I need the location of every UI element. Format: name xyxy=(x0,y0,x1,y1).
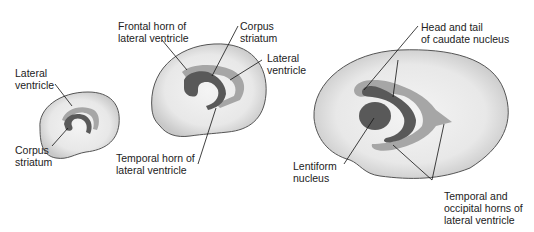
label-corpus-striatum-small: Corpus striatum xyxy=(15,144,52,168)
lentiform-nucleus-large xyxy=(359,102,391,130)
label-lateral-ventricle-medium: Lateral ventricle xyxy=(267,52,306,76)
label-temporal-occipital-horns: Temporal and occipital horns of lateral … xyxy=(444,190,523,226)
label-corpus-striatum-medium: Corpus striatum xyxy=(240,20,277,44)
brain-stage-medium xyxy=(152,44,267,137)
label-lentiform-nucleus: Lentiform nucleus xyxy=(293,160,337,184)
label-frontal-horn: Frontal horn of lateral ventricle xyxy=(118,20,189,44)
label-temporal-horn: Temporal horn of lateral ventricle xyxy=(116,152,195,176)
brain-stage-large xyxy=(314,50,508,179)
label-lateral-ventricle-small: Lateral ventricle xyxy=(15,67,54,91)
label-caudate-nucleus: Head and tail of caudate nucleus xyxy=(421,21,509,45)
